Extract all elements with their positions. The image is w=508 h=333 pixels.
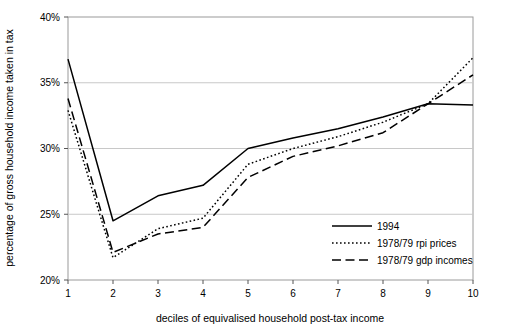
y-axis-tick-label: 35%	[40, 77, 60, 88]
x-axis-tick-label: 7	[335, 288, 341, 299]
chart-background	[0, 0, 508, 333]
chart-figure: 20%25%30%35%40% 12345678910 19941978/79 …	[0, 0, 508, 333]
y-axis-tick-label: 20%	[40, 275, 60, 286]
x-axis-tick-label: 2	[110, 288, 116, 299]
legend-label-2: 1978/79 gdp incomes	[377, 255, 473, 266]
legend-label-1: 1978/79 rpi prices	[377, 238, 457, 249]
x-axis-tick-label: 3	[155, 288, 161, 299]
x-axis-tick-label: 6	[290, 288, 296, 299]
y-axis-title: percentage of gross household income tak…	[3, 28, 15, 266]
x-axis-tick-label: 8	[380, 288, 386, 299]
x-axis-tick-label: 4	[200, 288, 206, 299]
x-axis-title: deciles of equivalised household post-ta…	[156, 312, 384, 324]
y-axis-tick-label: 30%	[40, 143, 60, 154]
line-chart: 20%25%30%35%40% 12345678910 19941978/79 …	[0, 0, 508, 333]
legend-label-0: 1994	[377, 221, 400, 232]
x-axis-tick-label: 10	[467, 288, 479, 299]
x-axis-tick-label: 1	[65, 288, 71, 299]
x-axis-tick-label: 5	[245, 288, 251, 299]
x-axis-tick-label: 9	[425, 288, 431, 299]
y-axis-tick-label: 40%	[40, 12, 60, 23]
y-axis-tick-label: 25%	[40, 209, 60, 220]
